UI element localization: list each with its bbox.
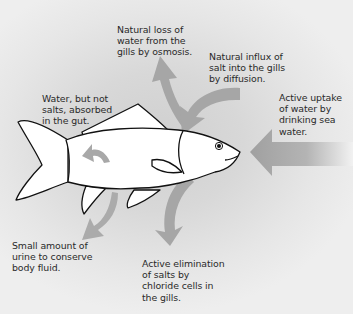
label-urine: Small amount of urine to conserve body f… [12, 240, 92, 274]
label-drinking: Active uptake of water by drinking sea w… [279, 92, 342, 137]
label-salt-elimination: Active elimination of salts by chloride … [142, 258, 225, 303]
label-salt-influx: Natural influx of salt into the gills by… [209, 51, 285, 85]
salt-influx-arrow [180, 88, 240, 135]
label-water-loss: Natural loss of water from the gills by … [117, 24, 192, 58]
label-gut: Water, but not salts, absorbed in the gu… [42, 93, 112, 127]
osmoregulation-diagram: Natural loss of water from the gills by … [0, 0, 353, 314]
